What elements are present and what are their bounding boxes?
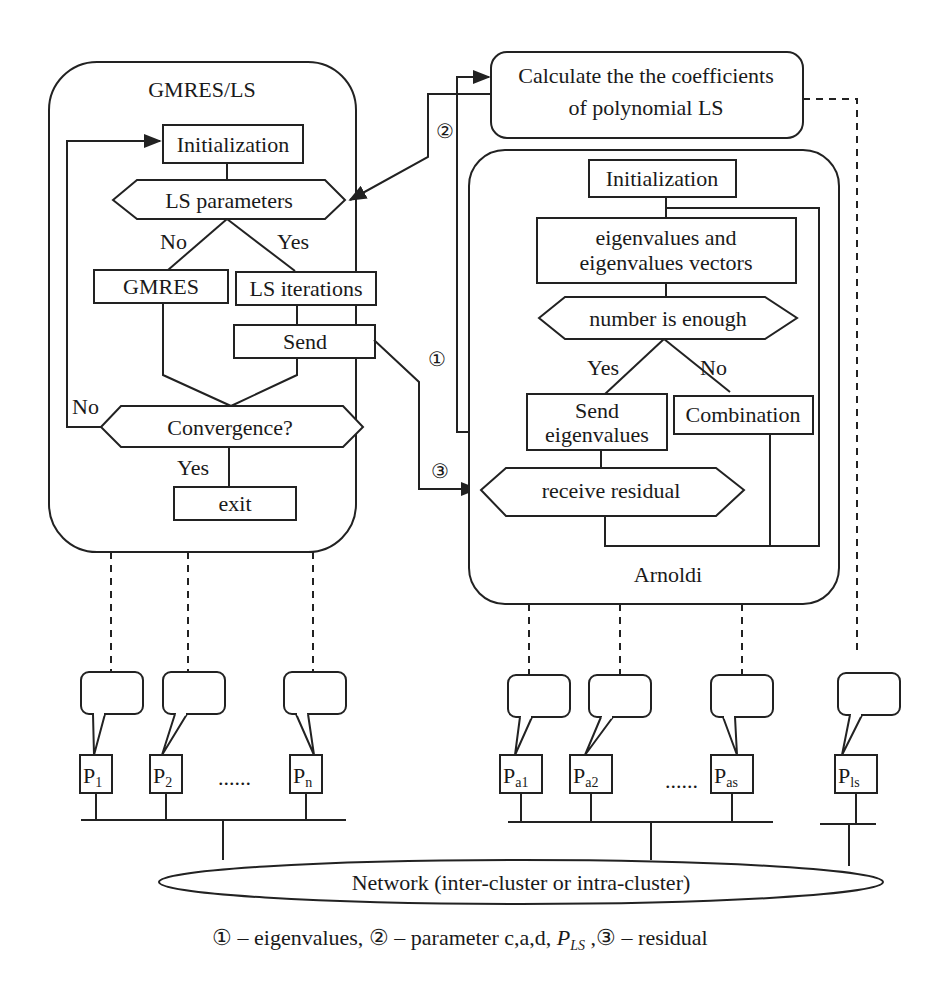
- legend-marker-3: ③: [596, 925, 616, 950]
- marker-1: ①: [428, 348, 446, 370]
- processor-node-ls-1: Pls: [835, 673, 900, 824]
- convergence-no-label: No: [72, 394, 99, 419]
- legend-text-4: – residual: [616, 925, 708, 950]
- processor-label-sub: as: [726, 775, 738, 790]
- processor-label-base: P: [573, 763, 585, 788]
- legend-pls-sub: LS: [569, 938, 585, 953]
- network-label: Network (inter-cluster or intra-cluster): [352, 870, 691, 895]
- bubble-tail: [723, 717, 737, 755]
- legend-marker-1: ①: [212, 925, 232, 950]
- processor-label-base: P: [503, 763, 515, 788]
- processor-node-arnoldi-1: Pa1: [500, 675, 570, 822]
- message-bubble: [838, 673, 900, 715]
- processor-label-base: P: [838, 763, 850, 788]
- yes-branch-label: Yes: [277, 229, 309, 254]
- processor-label-sub: a1: [515, 775, 528, 790]
- processors: P1P2PnPa1Pa2PasPls............: [80, 672, 900, 824]
- message-bubble: [711, 675, 773, 717]
- gmres-initialization-label: Initialization: [177, 132, 289, 157]
- processor-label-sub: 1: [95, 775, 102, 790]
- processor-label-base: P: [293, 763, 305, 788]
- combination-label: Combination: [686, 402, 801, 427]
- ls-parameters-label: LS parameters: [165, 188, 293, 213]
- gmres-ls-container: GMRES/LS Initialization LS parameters No…: [49, 62, 376, 552]
- processor-label-sub: 2: [165, 775, 172, 790]
- bubble-tail: [93, 714, 105, 755]
- processor-node-arnoldi-2: Pa2: [570, 675, 651, 822]
- bubble-tail: [162, 714, 187, 755]
- processor-label-base: P: [714, 763, 726, 788]
- legend-text-2: – parameter c,a,d,: [389, 925, 557, 950]
- marker-2: ②: [436, 120, 454, 142]
- marker-3: ③: [431, 460, 449, 482]
- legend-text-1: – eigenvalues,: [232, 925, 369, 950]
- network: Network (inter-cluster or intra-cluster): [159, 860, 883, 904]
- message-bubble: [508, 675, 570, 717]
- legend-pls-base: P: [556, 925, 570, 950]
- bubble-tail: [515, 717, 532, 755]
- bubble-tail: [842, 715, 862, 755]
- send-eigenvalues-line1: Send: [575, 398, 619, 423]
- parallel-solver-diagram: GMRES/LS Initialization LS parameters No…: [0, 0, 946, 992]
- message-bubble: [284, 672, 346, 714]
- no-branch-label: No: [160, 229, 187, 254]
- arnoldi-no-label: No: [700, 355, 727, 380]
- eigen-line2: eigenvalues vectors: [580, 250, 753, 275]
- receive-residual-label: receive residual: [542, 478, 681, 503]
- number-enough-label: number is enough: [589, 306, 747, 331]
- legend-text-3: ,: [585, 925, 596, 950]
- processor-ellipsis: ......: [665, 768, 698, 793]
- gmres-ls-title: GMRES/LS: [148, 77, 256, 102]
- exit-label: exit: [219, 491, 252, 516]
- marker-3-arrow: [374, 340, 477, 489]
- ls-coefficients-line1: Calculate the the coefficients: [518, 63, 774, 88]
- arnoldi-initialization-label: Initialization: [606, 166, 718, 191]
- arnoldi-title: Arnoldi: [634, 562, 702, 587]
- convergence-label: Convergence?: [167, 415, 292, 440]
- message-bubble: [589, 675, 651, 717]
- send-label: Send: [283, 329, 327, 354]
- processor-label-sub: n: [305, 775, 312, 790]
- gmres-label: GMRES: [123, 274, 199, 299]
- processor-label-sub: ls: [850, 775, 859, 790]
- processor-ellipsis: ......: [218, 765, 251, 790]
- ls-iterations-label: LS iterations: [249, 276, 362, 301]
- legend: ① – eigenvalues, ② – parameter c,a,d, PL…: [212, 925, 708, 953]
- processor-node-gmres-3: Pn: [284, 672, 346, 820]
- arnoldi-yes-label: Yes: [587, 355, 619, 380]
- convergence-yes-label: Yes: [177, 455, 209, 480]
- eigen-line1: eigenvalues and: [595, 225, 736, 250]
- send-eigenvalues-line2: eigenvalues: [545, 422, 649, 447]
- bubble-tail: [585, 717, 613, 755]
- processor-label-base: P: [83, 763, 95, 788]
- processor-node-gmres-2: P2: [150, 672, 225, 820]
- legend-marker-2: ②: [369, 925, 389, 950]
- ls-coefficients-line2: of polynomial LS: [568, 95, 723, 120]
- processor-node-gmres-1: P1: [80, 672, 143, 820]
- processor-label-sub: a2: [585, 775, 598, 790]
- bubble-tail: [296, 714, 314, 755]
- message-bubble: [81, 672, 143, 714]
- processor-label-base: P: [153, 763, 165, 788]
- processor-node-arnoldi-3: Pas: [711, 675, 773, 822]
- buses: [81, 820, 876, 866]
- arnoldi-container: Arnoldi Initialization eigenvalues and e…: [469, 150, 839, 604]
- message-bubble: [163, 672, 225, 714]
